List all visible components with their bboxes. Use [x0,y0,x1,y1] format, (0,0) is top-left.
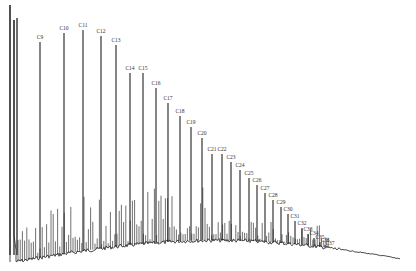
peak-label: C21 [207,146,216,152]
peak-label: C13 [111,37,120,43]
peak-label: C12 [96,28,105,34]
peak-label: C24 [235,162,244,168]
peak-label: C15 [138,65,147,71]
peak-label: C11 [79,22,88,28]
peak-label: C23 [226,154,235,160]
chromatogram-chart: C9C10C11C12C13C14C15C16C17C18C19C20C21C2… [0,0,416,271]
peak-label: C19 [186,119,195,125]
peak-label: C31 [290,213,299,219]
peak-label: C16 [151,80,160,86]
peak-label: C28 [268,192,277,198]
peak-label: C9 [37,34,44,40]
peak-label: C30 [283,206,292,212]
peak-label: C29 [276,199,285,205]
peak-labels: C9C10C11C12C13C14C15C16C17C18C19C20C21C2… [37,22,335,246]
peak-label: C22 [217,146,226,152]
peak-label: C27 [260,185,269,191]
alkane-peaks [10,5,330,258]
peak-label: C37 [325,240,334,246]
peak-label: C25 [244,170,253,176]
peak-label: C26 [252,177,261,183]
peak-label: C18 [175,108,184,114]
peak-label: C17 [163,95,172,101]
peak-label: C20 [197,130,206,136]
peak-label: C14 [125,65,134,71]
peak-label: C10 [59,25,68,31]
